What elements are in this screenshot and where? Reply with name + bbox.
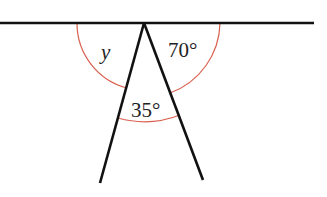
angle-diagram: y 70° 35°	[0, 0, 327, 197]
angle-label-35: 35°	[131, 98, 160, 122]
angle-label-y: y	[99, 40, 111, 64]
angle-label-70: 70°	[168, 38, 197, 62]
